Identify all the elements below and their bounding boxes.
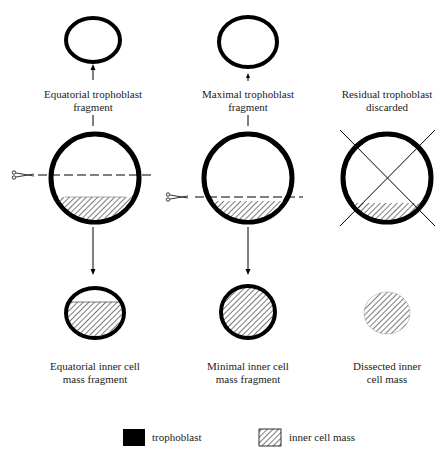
label-equatorial-icm: Equatorial inner cell mass fragment (35, 360, 155, 386)
dissected-icm-shape (364, 292, 410, 334)
label-maximal-trophoblast: Maximal trophoblast fragment (188, 88, 308, 114)
blastocyst-dissection-diagram (0, 0, 447, 455)
legend-swatch-trophoblast (123, 429, 145, 446)
equatorial-trophoblast-fragment-shape (66, 18, 120, 62)
scissors-icon (166, 193, 188, 201)
column-maximal (166, 17, 305, 338)
maximal-trophoblast-fragment-shape (219, 17, 277, 67)
label-equatorial-trophoblast: Equatorial trophoblast fragment (33, 88, 153, 114)
legend-label-inner-cell-mass: inner cell mass (289, 431, 355, 444)
legend-label-trophoblast: trophoblast (152, 431, 202, 444)
label-dissected-icm: Dissected inner cell mass (327, 360, 447, 386)
column-equatorial (12, 18, 155, 342)
legend (123, 429, 281, 446)
legend-swatch-inner-cell-mass (259, 429, 281, 446)
label-residual-trophoblast: Residual trophoblast discarded (327, 88, 447, 114)
label-minimal-icm: Minimal inner cell mass fragment (188, 360, 308, 386)
scissors-icon (12, 171, 34, 179)
column-residual (335, 130, 445, 334)
